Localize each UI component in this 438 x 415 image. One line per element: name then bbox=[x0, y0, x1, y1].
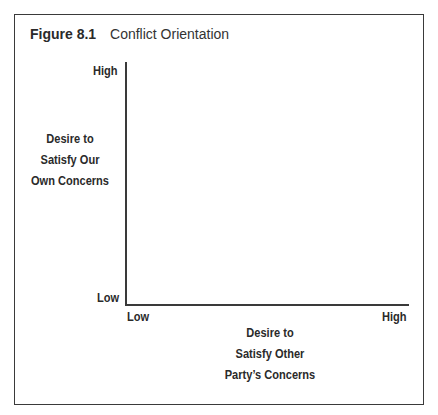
y-axis-title-line: Own Concerns bbox=[28, 170, 113, 191]
x-axis-low-label: Low bbox=[127, 310, 149, 323]
x-axis-title-line: Desire to bbox=[223, 322, 317, 343]
y-axis-low-label: Low bbox=[97, 291, 119, 304]
y-axis-title-line: Satisfy Our bbox=[28, 149, 113, 170]
y-axis-high-label: High bbox=[93, 64, 118, 77]
figure-number: Figure 8.1 bbox=[30, 26, 96, 42]
x-axis-line bbox=[125, 304, 409, 306]
x-axis-title-line: Party’s Concerns bbox=[223, 364, 317, 385]
y-axis-title: Desire to Satisfy Our Own Concerns bbox=[28, 128, 113, 191]
figure-title: Figure 8.1 Conflict Orientation bbox=[30, 26, 229, 42]
x-axis-title-line: Satisfy Other bbox=[223, 343, 317, 364]
figure-caption: Conflict Orientation bbox=[110, 26, 229, 42]
y-axis-title-line: Desire to bbox=[28, 128, 113, 149]
x-axis-title: Desire to Satisfy Other Party’s Concerns bbox=[223, 322, 317, 385]
x-axis-high-label: High bbox=[382, 310, 407, 323]
y-axis-line bbox=[125, 62, 127, 305]
figure-frame bbox=[14, 14, 424, 405]
